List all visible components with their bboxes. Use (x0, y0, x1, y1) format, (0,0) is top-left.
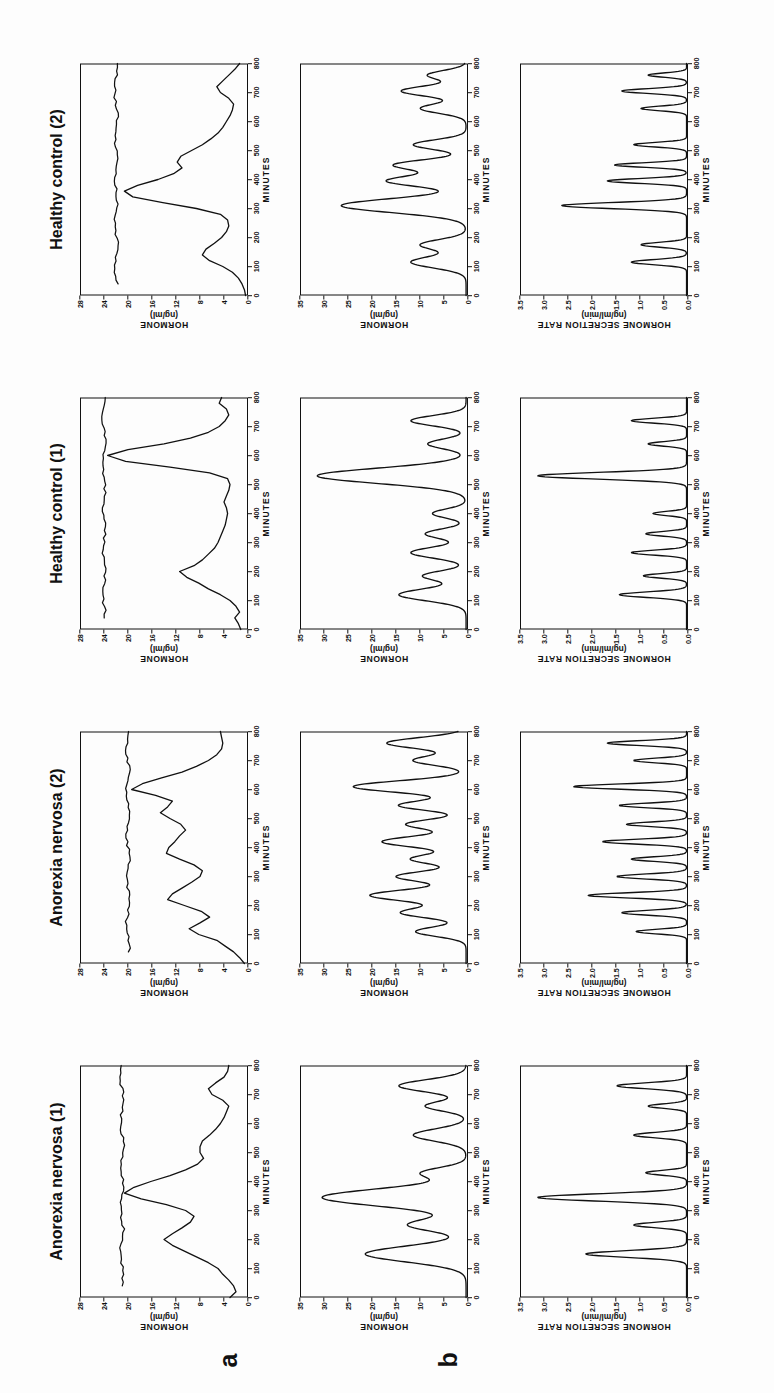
x-tick-label: 200 (692, 565, 701, 576)
y-tick-mark (663, 963, 664, 967)
y-tick-label: 4 (220, 1302, 229, 1306)
y-axis-title-text: HORMONE SECRETION RATE (537, 987, 671, 997)
x-tick-label: 300 (472, 1204, 481, 1215)
x-tick-label: 0 (472, 961, 481, 965)
y-tick-mark (103, 963, 104, 967)
plot-cell-r0-c0: 04812162024280100200300400500600700800MI… (80, 1065, 248, 1297)
x-tick-label: 100 (692, 928, 701, 939)
y-tick-mark (151, 1297, 152, 1301)
y-tick-mark (543, 963, 544, 967)
x-tick-label: 0 (692, 961, 701, 965)
y-tick-label: 0.5 (660, 1302, 669, 1311)
y-tick-label: 1.0 (636, 634, 645, 643)
y-tick-label: 0 (244, 634, 253, 638)
x-axis-title: MINUTES (701, 156, 711, 202)
x-tick-label: 400 (252, 173, 261, 184)
y-tick-label: 20 (368, 300, 377, 308)
plot-cell-r2-c0: 0.00.51.01.52.02.53.03.50100200300400500… (520, 1065, 688, 1297)
x-tick-label: 300 (252, 1204, 261, 1215)
x-tick-label: 400 (692, 1175, 701, 1186)
y-tick-label: 25 (344, 1302, 353, 1310)
y-tick-label: 30 (320, 300, 329, 308)
deconvolved-trace (341, 63, 466, 295)
y-tick-label: 24 (100, 968, 109, 976)
y-tick-label: 5 (440, 1302, 449, 1306)
y-tick-mark (79, 963, 80, 967)
fitted-baseline-trace (102, 397, 106, 617)
x-tick-label: 400 (472, 841, 481, 852)
y-tick-mark (591, 629, 592, 633)
plot-cell-r1-c1: 051015202530350100200300400500600700800M… (300, 731, 468, 963)
y-tick-mark (443, 295, 444, 299)
y-tick-mark (395, 963, 396, 967)
x-tick-label: 500 (252, 144, 261, 155)
y-axis-title-text: HORMONE (360, 1321, 408, 1331)
x-tick-label: 600 (692, 1117, 701, 1128)
y-tick-mark (323, 1297, 324, 1301)
y-axis-unit: (ng/ml) (140, 309, 188, 319)
y-tick-mark (199, 963, 200, 967)
x-axis-title: MINUTES (481, 490, 491, 536)
y-tick-label: 1.0 (636, 300, 645, 309)
deconvolved-trace (562, 63, 687, 295)
x-tick-label: 100 (472, 260, 481, 271)
y-tick-label: 0.5 (660, 634, 669, 643)
panel-letter-b: b (434, 1352, 463, 1367)
x-tick-label: 0 (252, 961, 261, 965)
x-tick-label: 700 (472, 1088, 481, 1099)
y-tick-label: 0.5 (660, 968, 669, 977)
x-tick-label: 600 (472, 1117, 481, 1128)
fitted-baseline-trace (114, 63, 119, 283)
x-tick-label: 600 (472, 115, 481, 126)
x-tick-label: 100 (252, 1262, 261, 1273)
y-tick-mark (79, 629, 80, 633)
x-tick-label: 700 (252, 754, 261, 765)
x-tick-label: 500 (252, 812, 261, 823)
x-tick-label: 100 (692, 260, 701, 271)
y-tick-mark (199, 629, 200, 633)
column-title-3: Healthy control (2) (48, 43, 66, 315)
y-tick-mark (615, 963, 616, 967)
x-tick-label: 400 (472, 1175, 481, 1186)
y-tick-label: 15 (392, 1302, 401, 1310)
rotated-figure: abAnorexia nervosa (1)Anorexia nervosa (… (0, 0, 774, 1393)
y-axis-unit: (ng/ml) (360, 1311, 408, 1321)
y-tick-label: 30 (320, 634, 329, 642)
y-axis-title-text: HORMONE (140, 1321, 188, 1331)
y-tick-label: 20 (368, 1302, 377, 1310)
figure-page: abAnorexia nervosa (1)Anorexia nervosa (… (0, 0, 774, 1393)
x-tick-label: 600 (472, 783, 481, 794)
y-tick-label: 20 (368, 968, 377, 976)
y-axis-title: HORMONE SECRETION RATE(ng/ml/min) (537, 309, 671, 329)
y-tick-label: 16 (148, 1302, 157, 1310)
x-tick-label: 800 (692, 1059, 701, 1070)
y-tick-label: 16 (148, 968, 157, 976)
observed-hormone-trace (124, 63, 245, 295)
y-tick-label: 12 (172, 634, 181, 642)
trace-svg (300, 731, 468, 963)
y-axis-title-text: HORMONE (140, 653, 188, 663)
y-tick-mark (567, 963, 568, 967)
x-tick-label: 500 (692, 1146, 701, 1157)
x-tick-label: 200 (692, 1233, 701, 1244)
y-tick-label: 1.5 (612, 1302, 621, 1311)
plot-cell-r2-c2: 0.00.51.01.52.02.53.03.50100200300400500… (520, 397, 688, 629)
figure-inner: abAnorexia nervosa (1)Anorexia nervosa (… (0, 0, 774, 1393)
y-tick-mark (615, 629, 616, 633)
y-tick-label: 4 (220, 968, 229, 972)
x-tick-label: 800 (252, 1059, 261, 1070)
y-tick-mark (175, 295, 176, 299)
y-tick-label: 0 (464, 634, 473, 638)
x-tick-label: 400 (252, 507, 261, 518)
x-tick-label: 800 (692, 57, 701, 68)
x-tick-label: 500 (472, 144, 481, 155)
y-tick-mark (519, 629, 520, 633)
y-tick-mark (615, 295, 616, 299)
y-tick-mark (519, 963, 520, 967)
y-tick-label: 0 (244, 968, 253, 972)
x-tick-label: 500 (252, 478, 261, 489)
x-tick-label: 0 (692, 293, 701, 297)
y-tick-label: 3.5 (516, 300, 525, 309)
y-tick-mark (79, 1297, 80, 1301)
x-tick-label: 200 (252, 899, 261, 910)
